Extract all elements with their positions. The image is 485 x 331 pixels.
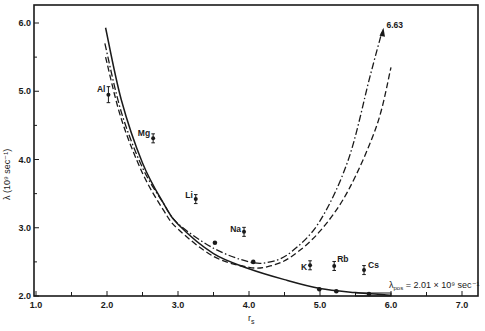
- curve-point: [367, 292, 372, 297]
- x-tick-label: 3.0: [172, 300, 185, 310]
- y-axis-label: λ (10⁹ sec⁻¹): [2, 149, 12, 200]
- curve-point: [251, 260, 256, 265]
- curve-point: [213, 240, 218, 245]
- x-tick-label: 4.0: [243, 300, 256, 310]
- curve-point: [334, 289, 339, 294]
- point-label: Rb: [337, 254, 348, 264]
- point-label: Na: [230, 224, 241, 234]
- point-marker: [332, 264, 336, 268]
- x-tick-label: 7.0: [456, 300, 469, 310]
- y-tick-label: 6.0: [18, 18, 31, 28]
- point-marker: [194, 197, 198, 201]
- lambda-pos-annotation: λpos = 2.01 × 10⁹ sec⁻¹: [389, 280, 480, 291]
- point-label: Al: [97, 84, 106, 94]
- chart: 2.03.04.05.06.0 1.02.03.04.05.06.07.0 λ …: [0, 0, 485, 331]
- y-tick-label: 4.0: [18, 155, 31, 165]
- x-tick-label: 5.0: [314, 300, 327, 310]
- point-label: Li: [185, 190, 193, 200]
- x-tick-label: 6.0: [385, 300, 398, 310]
- point-marker: [106, 93, 110, 97]
- x-tick-label: 1.0: [30, 300, 43, 310]
- x-tick-label: 2.0: [101, 300, 114, 310]
- point-label: Cs: [368, 260, 379, 270]
- point-marker: [362, 268, 366, 272]
- point-marker: [242, 230, 246, 234]
- peak-value-annotation: 6.63: [386, 20, 403, 30]
- y-tick-label: 3.0: [18, 223, 31, 233]
- point-label: K: [301, 262, 308, 272]
- point-label: Mg: [138, 128, 150, 138]
- y-tick-label: 5.0: [18, 86, 31, 96]
- point-marker: [308, 263, 312, 267]
- curve-point: [317, 287, 322, 292]
- point-marker: [151, 136, 155, 140]
